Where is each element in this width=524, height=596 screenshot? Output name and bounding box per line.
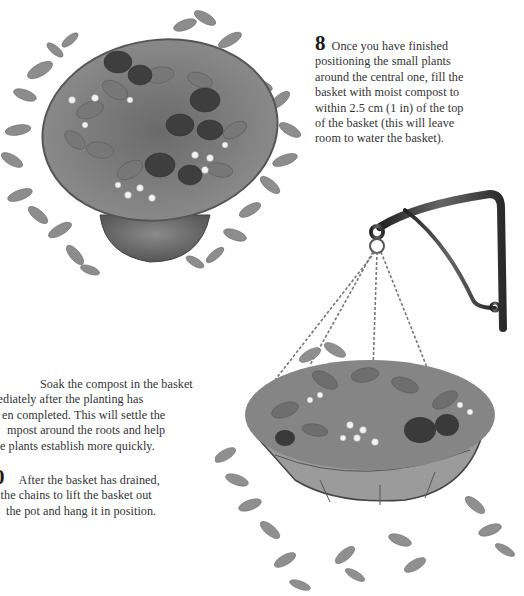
step-8-text: 8Once you have finished positioning the … (315, 36, 524, 147)
step-line: mediately after the planting has (0, 392, 218, 407)
terracotta-pot (100, 215, 210, 262)
step-line: Soak the compost in the basket (0, 377, 218, 392)
step-number: 0 (0, 465, 5, 489)
book-page: 8Once you have finished positioning the … (0, 0, 524, 596)
step-9-text: Soak the compost in the basket mediately… (0, 377, 218, 454)
step-line: e the chains to lift the basket out (0, 488, 224, 503)
step-line: within 2.5 cm (1 in) of the top (315, 101, 524, 116)
step-line: After the basket has drained, (19, 473, 160, 487)
step-line: Once you have finished (332, 39, 449, 53)
step-line: around the central one, fill the (315, 70, 524, 85)
step-line: the pot and hang it in position. (0, 504, 224, 519)
step-line: room to water the basket). (315, 131, 524, 146)
step-line: positioning the small plants (315, 54, 524, 69)
step-line: en completed. This will settle the (0, 408, 218, 423)
hanging-chains (275, 239, 430, 380)
step-line: basket with moist compost to (315, 85, 524, 100)
hanging-basket-illustration (215, 180, 524, 596)
step-number: 8 (315, 31, 326, 55)
step-line: of the basket (this will leave (315, 116, 524, 131)
step-line: e plants establish more quickly. (0, 439, 218, 454)
wall-bracket (371, 194, 503, 328)
step-line: mpost around the roots and help (0, 423, 218, 438)
step-10-text: 0After the basket has drained, e the cha… (0, 470, 224, 519)
